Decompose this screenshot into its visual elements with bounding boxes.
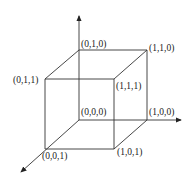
vertex-label-001: (0,0,1) xyxy=(42,152,67,162)
vertex-label-010: (0,1,0) xyxy=(81,40,106,50)
vertex-label-011: (0,1,1) xyxy=(13,76,38,86)
vertex-label-100: (1,0,0) xyxy=(149,108,174,118)
cube-drawing xyxy=(0,0,193,181)
cube-diagram: (0,1,0) (1,1,0) (0,1,1) (1,1,1) (0,0,0) … xyxy=(0,0,193,181)
vertex-label-111: (1,1,1) xyxy=(116,82,141,92)
z-axis xyxy=(21,120,79,172)
vertex-label-110: (1,1,0) xyxy=(149,44,174,54)
edge xyxy=(114,120,147,149)
vertex-label-101: (1,0,1) xyxy=(117,148,142,158)
edge xyxy=(114,50,147,79)
vertex-label-000: (0,0,0) xyxy=(81,108,106,118)
edge xyxy=(45,50,79,79)
